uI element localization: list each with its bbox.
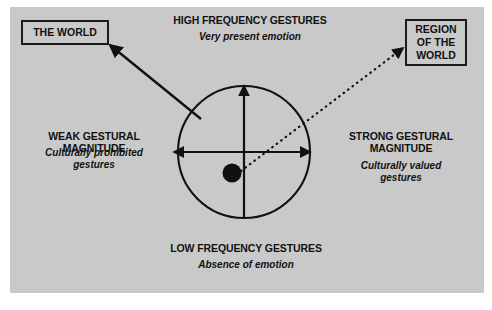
label-high-frequency-gestures: HIGH FREQUENCY GESTURES bbox=[144, 14, 356, 26]
label-strong-gestural-subtitle: Culturally valued gestures bbox=[330, 160, 472, 184]
box-region-of-the-world[interactable]: REGION OF THE WORLD bbox=[405, 19, 467, 66]
label-low-frequency-gestures: LOW FREQUENCY GESTURES bbox=[140, 242, 352, 254]
box-the-world[interactable]: THE WORLD bbox=[21, 20, 109, 45]
solid-arrow-to-the-world bbox=[110, 45, 201, 119]
diagram-canvas: THE WORLD REGION OF THE WORLD HIGH FREQU… bbox=[0, 0, 492, 310]
label-low-frequency-subtitle: Absence of emotion bbox=[140, 259, 352, 271]
label-weak-gestural-subtitle: Culturally prohibited gestures bbox=[16, 147, 172, 171]
label-strong-gestural-magnitude: STRONG GESTURAL MAGNITUDE bbox=[330, 130, 472, 155]
position-dot bbox=[223, 164, 242, 183]
label-high-frequency-subtitle: Very present emotion bbox=[144, 31, 356, 43]
